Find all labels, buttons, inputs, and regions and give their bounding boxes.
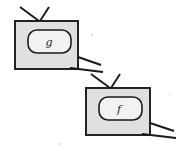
g-input-right-icon [40,7,49,21]
diagram-svg: g f [0,0,181,151]
diagram-canvas: g f [0,0,181,151]
f-input-left-icon [91,74,110,88]
g-label: g [45,36,52,49]
paper-speck-1 [91,34,93,36]
g-output-upper-icon [78,57,101,65]
node-g[interactable]: g [15,7,103,72]
node-f[interactable]: f [86,74,176,138]
paper-speck-3 [169,93,171,95]
f-output-upper-icon [150,123,174,131]
f-input-right-icon [111,74,120,88]
f-output-lower-icon [142,134,176,138]
g-input-left-icon [20,7,39,21]
g-output-lower-icon [70,68,103,72]
paper-speck-2 [58,143,60,145]
